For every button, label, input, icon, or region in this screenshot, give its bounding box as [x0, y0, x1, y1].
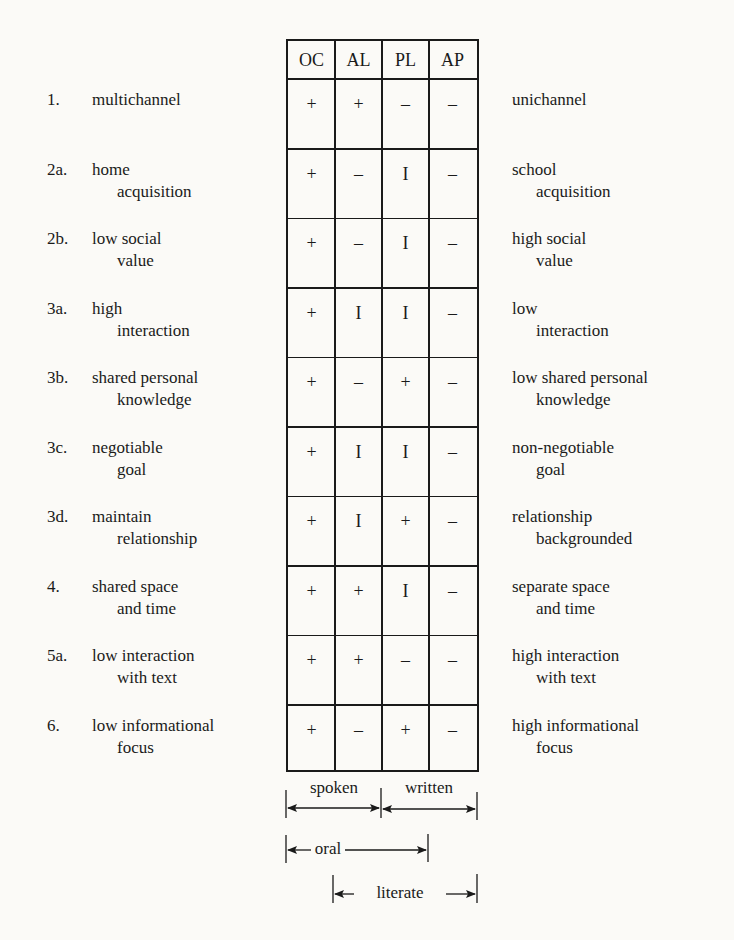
oral-label: oral [311, 839, 345, 859]
range-brackets [0, 0, 734, 940]
written-label: written [384, 778, 474, 798]
oral-bracket [286, 834, 428, 863]
spoken-label: spoken [291, 778, 377, 798]
literate-label: literate [354, 883, 446, 903]
